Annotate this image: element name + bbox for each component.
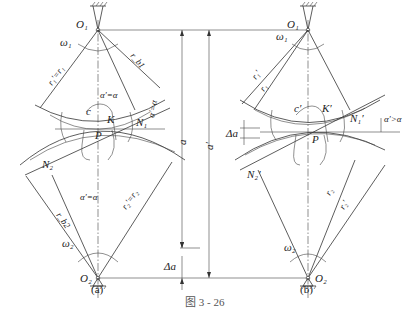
label-rb1: r_b1 [128,51,147,70]
dimensions: a Δa a′ [98,30,310,290]
panel-b-label: (b) [300,283,313,296]
label-r1-b: r₁ [257,82,269,93]
label-a-prime: a′ [203,142,215,151]
label-o2-b: O₂ [315,272,327,284]
label-delta-a-b: Δa [225,127,238,139]
label-n1-prime: N₁′ [349,112,364,124]
label-r1: r₁′=r₁ [45,64,65,87]
label-o1: O₁ [76,18,88,30]
panel-b: O₁ ω₁ r₁′ r₁ c′ K′ N₁′ α′>α Δa P N₂′ r₂ … [225,2,402,300]
label-alpha-bottom: α′=α [80,192,98,202]
label-c: c [86,105,91,117]
label-omega2-b: ω₂ [284,241,296,253]
label-p: P [94,129,102,141]
label-n2: N₂ [41,158,53,170]
label-r1-prime: r₁′ [249,68,263,82]
label-alpha-gt: α′>α [384,114,402,124]
label-r2: r₂′=r₂ [119,188,139,211]
gear-meshing-diagram: O₁ ω₁ r₁′=r₁ r_b1 α′=α α′=α c K N₁ P N₂ … [0,0,407,325]
label-r2-b: r₂ [323,186,335,197]
panel-a-label: (a) [91,283,104,296]
label-p-b: P [311,133,319,145]
label-alpha-top: α′=α [100,90,118,100]
label-k-prime: K′ [321,102,332,114]
label-omega2: ω₂ [62,237,74,249]
figure-caption: 图 3 - 26 [185,296,225,308]
label-omega1-b: ω₁ [276,30,288,42]
label-n2-prime: N₂′ [246,168,261,180]
label-c-prime: c′ [294,102,302,114]
panel-a: O₁ ω₁ r₁′=r₁ r_b1 α′=α α′=α c K N₁ P N₂ … [20,2,185,300]
label-alpha-side: α′=α [146,99,159,118]
label-delta-a: Δa [163,260,176,272]
label-a: a [176,139,188,145]
ground-hatch-icon [90,2,107,30]
label-o1-b: O₁ [287,18,299,30]
label-n1: N₁ [135,116,147,128]
label-omega1: ω₁ [60,36,72,48]
label-k: K [106,113,115,125]
